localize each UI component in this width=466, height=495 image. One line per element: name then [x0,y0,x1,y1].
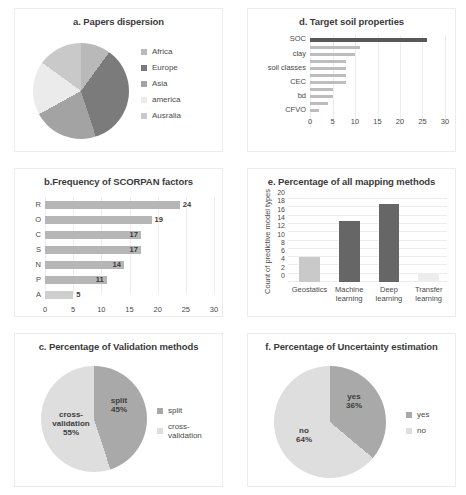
bar-value-c: 17 [130,230,138,239]
legend-item-no: no [406,426,429,435]
bar-cfvo [310,109,319,112]
chart-b-xtick: 10 [97,305,105,314]
label-line: learning [330,294,368,303]
legend-label-africa: Africa [152,47,172,56]
label-line: Machine [330,285,368,294]
bar-deep-learning [379,204,400,282]
chart-d-xtick: 30 [441,117,449,126]
label-line: yes [338,392,370,401]
legend-swatch-no [406,428,412,434]
chart-d-ylabel-cfvo: CFVO [285,105,306,114]
gridline [214,197,215,294]
gridline [422,35,423,127]
gridline [288,223,447,224]
legend-item-split: split [157,406,222,415]
chart-b-xtick: 25 [182,305,190,314]
legend-label-yes: yes [417,410,429,419]
label-line: learning [410,294,448,303]
chart-e-axis-title: Count of predictive model types [263,187,272,297]
chart-c-label-split: split 45% [101,396,137,414]
chart-e-xlabel-machine-learning: Machine learning [330,285,368,303]
chart-d-title: d. Target soil properties [248,16,455,27]
chart-f-pie [274,366,386,478]
legend-swatch-europe [141,65,147,71]
chart-d-xtick: 10 [351,117,359,126]
chart-d-xtick: 15 [373,117,381,126]
bar-value-o: 19 [155,215,163,224]
chart-d-ylabel-cec: CEC [290,77,306,86]
legend-item-asia: Asia [141,79,181,88]
panel-e: e. Percentage of all mapping methods Cou… [233,160,466,325]
bar-clay [310,53,355,56]
table-row: P 11 [45,276,214,284]
legend-item-cross-validation: cross-validation [157,422,222,440]
chart-c-label-cross-validation: cross- validation 55% [47,410,95,438]
chart-d-xtick: 0 [308,117,312,126]
legend-label-no: no [417,426,426,435]
chart-d-ylabel-soc: SOC [290,34,306,43]
chart-e-ytick: 12 [277,222,285,229]
chart-e-plot: 0 2 4 6 8 10 12 14 16 18 20 Geostatics [288,199,447,282]
panel-f-frame: f. Percentage of Uncertainty estimation … [247,333,456,487]
label-line: validation [47,419,95,428]
figure-grid: a. Papers dispersion Africa Europe Asia [0,0,466,495]
chart-b-xtick: 15 [125,305,133,314]
chart-e-ytick: 20 [277,189,285,196]
panel-a-frame: a. Papers dispersion Africa Europe Asia [14,8,223,152]
bar-transfer-learning [418,273,439,282]
bar-machine-learning [339,221,360,282]
legend-item-america: america [141,95,181,104]
gridline [445,35,446,127]
table-row: C 17 [45,231,214,239]
label-line: 36% [338,401,370,410]
chart-d-xtick: 5 [330,117,334,126]
bar-value-a: 5 [76,290,80,299]
chart-b-xtick: 30 [210,305,218,314]
panel-d: d. Target soil properties SOC clay soil … [233,0,466,160]
chart-f-title: f. Percentage of Uncertainty estimation [248,341,455,352]
gridline [288,215,447,216]
gridline [400,35,401,127]
chart-e-title: e. Percentage of all mapping methods [248,176,455,187]
bar-value-s: 17 [130,245,138,254]
label-line: 55% [47,428,95,437]
chart-d-ylabel-bd: bd [298,91,306,100]
chart-d-xtick: 25 [418,117,426,126]
gridline [378,35,379,127]
legend-swatch-asia [141,81,147,87]
legend-item-africa: Africa [141,47,181,56]
bar-s [45,246,141,254]
chart-f-legend: yes no [406,410,429,442]
table-row: R 24 [45,201,214,209]
panel-b-frame: b.Frequency of SCORPAN factors R 24 O 19 [14,168,223,317]
table-row: A 5 [45,291,214,299]
bar-soil-classes [310,67,346,70]
bar-item-2 [310,46,360,49]
chart-f-label-yes: yes 36% [338,392,370,410]
panel-c: c. Percentage of Validation methods spli… [0,325,233,495]
bar-item-8 [310,88,333,91]
chart-a-pie [33,43,129,139]
legend-label-australia: Ausralia [152,111,181,120]
legend-label-asia: Asia [152,79,168,88]
bar-value-r: 24 [183,200,191,209]
table-row: N 14 [45,261,214,269]
gridline [288,198,447,199]
chart-b-xtick: 20 [154,305,162,314]
chart-e-ytick: 6 [281,247,285,254]
chart-b-ylabel-o: O [23,215,41,224]
legend-item-yes: yes [406,410,429,419]
label-line: split [101,396,137,405]
legend-swatch-yes [406,412,412,418]
chart-a-title: a. Papers dispersion [15,16,222,27]
chart-b-xtick: 5 [71,305,75,314]
table-row: S 17 [45,246,214,254]
legend-label-cross-validation: cross-validation [168,422,222,440]
chart-e-ytick: 2 [281,263,285,270]
bar-r [45,201,180,209]
bar-geostatics [299,257,320,282]
chart-b-ylabel-c: C [23,230,41,239]
chart-d-plot: SOC clay soil classes CEC bd CFVO 0 5 [310,35,445,127]
legend-swatch-africa [141,49,147,55]
chart-e-ytick: 8 [281,238,285,245]
